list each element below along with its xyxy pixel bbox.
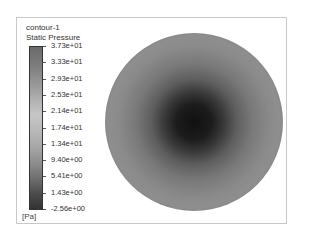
legend-title: contour-1 Static Pressure bbox=[26, 23, 80, 43]
colorbar-tick bbox=[43, 62, 46, 63]
colorbar-tick-label: 2.93e+01 bbox=[51, 75, 83, 83]
colorbar-tick-label: 3.33e+01 bbox=[51, 58, 83, 66]
colorbar-tick-label: 2.14e+01 bbox=[51, 107, 83, 115]
pressure-contour-disk bbox=[105, 33, 283, 211]
colorbar-tick-label: 5.41e+00 bbox=[51, 172, 83, 180]
colorbar-tick bbox=[43, 209, 46, 210]
colorbar-tick-label: 2.53e+01 bbox=[51, 91, 83, 99]
colorbar-tick bbox=[43, 160, 46, 161]
colorbar-tick-label: 1.74e+01 bbox=[51, 124, 83, 132]
colorbar-tick-label: 1.34e+01 bbox=[51, 140, 83, 148]
colorbar-tick bbox=[43, 144, 46, 145]
colorbar-tick bbox=[43, 95, 46, 96]
contour-name: contour-1 bbox=[26, 23, 80, 33]
colorbar-tick bbox=[43, 176, 46, 177]
colorbar-tick bbox=[43, 128, 46, 129]
colorbar-tick bbox=[43, 193, 46, 194]
colorbar-tick bbox=[43, 46, 46, 47]
colorbar-tick-label: 3.73e+01 bbox=[51, 42, 83, 50]
unit-label: [Pa] bbox=[22, 212, 36, 221]
colorbar-tick bbox=[43, 111, 46, 112]
colorbar-tick-label: 9.40e+00 bbox=[51, 156, 83, 164]
colorbar-tick bbox=[43, 79, 46, 80]
colorbar bbox=[29, 46, 43, 210]
colorbar-tick-label: 1.43e+00 bbox=[51, 189, 83, 197]
colorbar-tick-label: -2.56e+00 bbox=[51, 205, 85, 213]
